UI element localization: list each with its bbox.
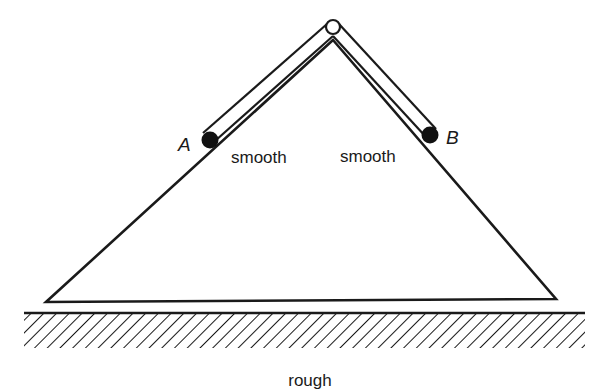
wedge xyxy=(46,40,556,302)
bead-a-icon xyxy=(202,132,219,149)
label-bead-a: A xyxy=(177,134,191,155)
label-ground: rough xyxy=(288,371,331,390)
label-bead-b: B xyxy=(446,127,459,148)
bead-b-icon xyxy=(422,127,439,144)
label-right-face: smooth xyxy=(340,147,396,166)
hinge-icon xyxy=(326,20,340,34)
wedge-outline xyxy=(46,40,556,302)
label-left-face: smooth xyxy=(231,148,287,167)
ground xyxy=(24,313,585,348)
ground-hatching xyxy=(24,314,585,348)
mechanics-diagram: A B smooth smooth rough xyxy=(0,0,599,391)
